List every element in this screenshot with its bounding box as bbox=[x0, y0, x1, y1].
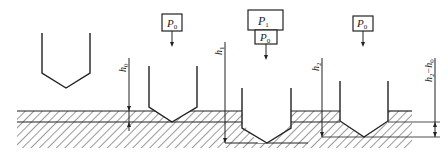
specimen-upper-layer bbox=[17, 111, 245, 122]
indenter-initial bbox=[42, 33, 90, 88]
hardness-diagram: P0 h0 P1 P0 h1 P0 h2 bbox=[0, 0, 448, 160]
svg-text:h0: h0 bbox=[117, 63, 130, 72]
svg-text:h1: h1 bbox=[213, 46, 226, 55]
indenter-unloaded: P0 bbox=[340, 16, 388, 137]
dimension-h2-minus-h0: h2−h0 bbox=[423, 58, 437, 137]
arrow-down-icon bbox=[264, 55, 268, 60]
arrow-down-icon bbox=[361, 42, 365, 47]
svg-text:h2: h2 bbox=[310, 62, 323, 71]
indenter-preload: P0 bbox=[149, 14, 197, 122]
svg-text:h2−h0: h2−h0 bbox=[423, 59, 436, 82]
arrow-down-icon bbox=[170, 42, 174, 47]
indenter-main-load: P1 P0 bbox=[242, 10, 291, 143]
